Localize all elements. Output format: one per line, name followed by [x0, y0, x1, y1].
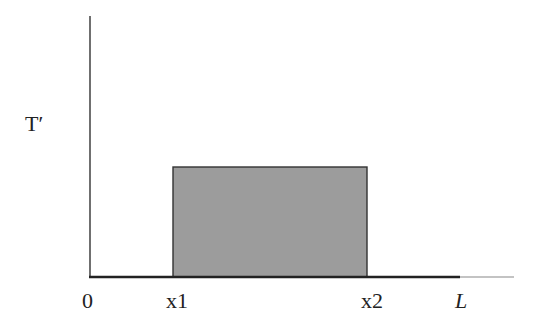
x-tick-x1: x1	[166, 290, 188, 312]
x-tick-x2: x2	[361, 290, 383, 312]
y-axis-label: T′	[25, 113, 43, 135]
x-tick-origin: 0	[82, 290, 93, 312]
x-tick-L: L	[455, 290, 467, 312]
pulse-diagram	[0, 0, 539, 332]
pulse-rectangle	[173, 167, 367, 277]
